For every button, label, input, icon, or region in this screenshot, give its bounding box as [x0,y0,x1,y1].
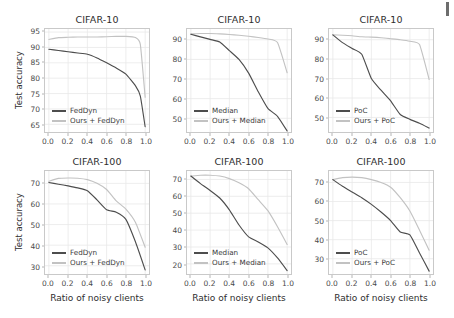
y-tick-mark [184,99,187,100]
y-tick-label: 40 [30,241,40,250]
legend-line-icon [52,120,66,121]
x-tick-label: 0.4 [223,137,235,146]
figure-panel-grid: Test accuracyCIFAR-10657075808590950.00.… [0,0,454,318]
legend-entry: Ours + Median [194,116,266,126]
subplot-title: CIFAR-10 [328,14,434,25]
subplot-cifar100-poc: CIFAR-10030405060700.00.20.40.60.81.0PoC… [328,170,434,275]
legend: PoCOurs + PoC [336,248,395,268]
y-tick-mark [184,195,187,196]
y-tick-mark [42,266,45,267]
y-tick-mark [184,119,187,120]
subplot-title: CIFAR-10 [44,14,150,25]
x-tick-mark [229,275,230,278]
x-tick-mark [371,275,372,278]
y-tick-label: 40 [172,226,182,235]
x-tick-label: 0.2 [346,279,358,288]
subplot-cifar10-median: CIFAR-1050607080900.00.20.40.60.81.0Medi… [186,28,292,133]
x-tick-label: 0.8 [262,279,274,288]
legend-label: Ours + Median [212,116,266,126]
y-tick-mark [184,264,187,265]
legend-entry: Median [194,248,266,258]
x-tick-mark [331,275,332,278]
y-tick-label: 50 [172,115,182,124]
y-tick-label: 50 [30,220,40,229]
legend-label: Ours + FedDyn [70,258,125,268]
subplot-cifar100-feddyn: CIFAR-10030405060700.00.20.40.60.81.0Fed… [44,170,150,275]
y-tick-mark [42,109,45,110]
subplot-cifar100-median: CIFAR-1002030405060700.00.20.40.60.81.0M… [186,170,292,275]
y-tick-mark [326,220,329,221]
y-tick-label: 70 [172,75,182,84]
x-tick-mark [146,133,147,136]
x-tick-mark [410,275,411,278]
legend: MedianOurs + Median [194,106,266,126]
x-tick-label: 0.8 [120,137,132,146]
legend-line-icon [336,120,350,121]
y-tick-label: 70 [30,178,40,187]
x-tick-mark [390,275,391,278]
legend-entry: Ours + FedDyn [52,116,125,126]
series-line [49,36,145,97]
subplot-title: CIFAR-100 [44,156,150,167]
series-line [191,33,287,72]
x-tick-label: 0.0 [184,279,196,288]
y-tick-mark [184,178,187,179]
y-axis-label: Test accuracy [14,51,24,109]
y-tick-label: 60 [172,191,182,200]
y-tick-label: 85 [30,58,40,67]
series-line [333,35,429,80]
x-tick-mark [126,133,127,136]
legend-label: Median [212,248,238,258]
legend-label: Ours + PoC [354,258,395,268]
y-tick-mark [326,259,329,260]
y-tick-mark [326,181,329,182]
legend-entry: Ours + PoC [336,258,395,268]
y-tick-label: 50 [172,209,182,218]
x-tick-mark [126,275,127,278]
legend-label: FedDyn [70,106,97,116]
y-tick-mark [42,78,45,79]
y-tick-label: 70 [30,105,40,114]
x-tick-label: 0.0 [326,279,338,288]
y-tick-label: 65 [30,121,40,130]
legend-line-icon [52,110,66,111]
y-tick-label: 30 [314,255,324,264]
y-tick-label: 20 [172,260,182,269]
legend-entry: FedDyn [52,248,125,258]
y-tick-label: 30 [30,262,40,271]
y-tick-mark [42,182,45,183]
series-line [49,178,145,247]
subplot-title: CIFAR-100 [186,156,292,167]
subplot-title: CIFAR-100 [328,156,434,167]
y-tick-mark [326,78,329,79]
x-tick-label: 0.4 [81,279,93,288]
y-tick-mark [184,59,187,60]
legend-label: PoC [354,248,368,258]
y-tick-label: 30 [172,243,182,252]
x-tick-mark [390,133,391,136]
legend: FedDynOurs + FedDyn [52,106,125,126]
legend-line-icon [194,262,208,263]
y-tick-mark [184,247,187,248]
x-tick-mark [67,133,68,136]
x-tick-label: 1.0 [140,137,152,146]
legend-entry: PoC [336,248,395,258]
x-tick-mark [268,133,269,136]
x-tick-label: 1.0 [424,137,436,146]
y-tick-mark [42,125,45,126]
legend-line-icon [52,252,66,253]
x-tick-label: 0.8 [404,279,416,288]
legend-entry: Ours + PoC [336,116,395,126]
x-tick-mark [106,275,107,278]
y-tick-mark [326,201,329,202]
x-tick-label: 0.4 [365,137,377,146]
x-tick-mark [67,275,68,278]
y-tick-mark [42,245,45,246]
x-tick-mark [229,133,230,136]
y-tick-label: 60 [314,94,324,103]
x-tick-label: 0.6 [243,279,255,288]
x-tick-label: 0.0 [42,279,54,288]
y-tick-mark [42,203,45,204]
y-tick-mark [42,224,45,225]
x-tick-label: 0.8 [120,279,132,288]
